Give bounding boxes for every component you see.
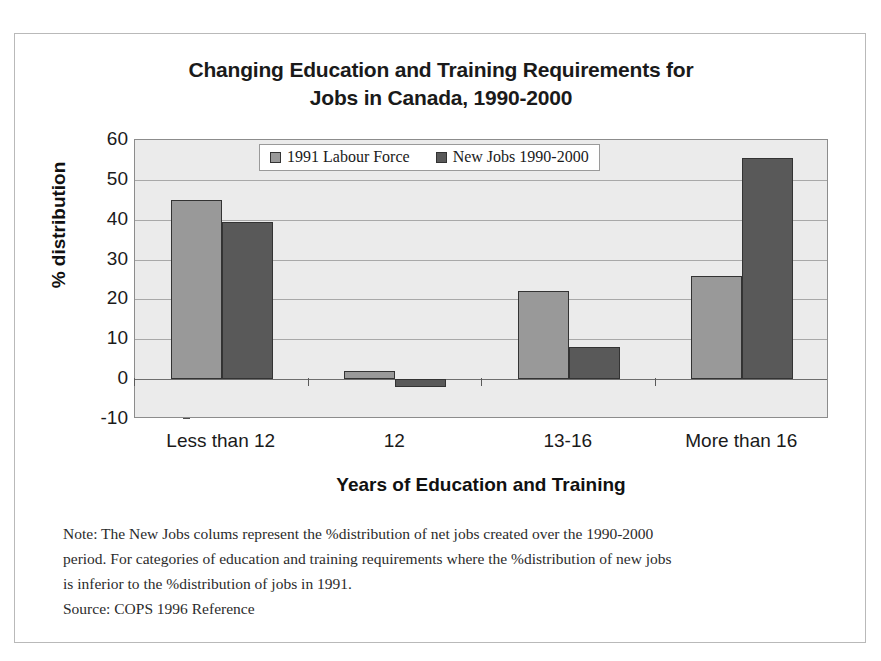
bar-1-1 [395, 379, 446, 387]
gridline [135, 180, 827, 181]
bar-3-1 [742, 158, 793, 379]
legend-entry-1: New Jobs 1990-2000 [436, 148, 589, 166]
legend-label: New Jobs 1990-2000 [453, 148, 589, 166]
legend-swatch-icon [436, 152, 447, 163]
y-tick-label: 50 [107, 168, 128, 190]
footnote-line-1: Note: The New Jobs colums represent the … [63, 521, 823, 546]
y-tick-label: 40 [107, 208, 128, 230]
x-tick-mark [134, 378, 135, 386]
footnote-line-4: Source: COPS 1996 Reference [63, 596, 823, 621]
x-axis-title: Years of Education and Training [134, 474, 828, 496]
gridline [135, 220, 827, 221]
plot-area [134, 139, 828, 418]
x-tick-label: 13-16 [543, 430, 592, 452]
chart-legend: 1991 Labour ForceNew Jobs 1990-2000 [259, 144, 600, 171]
chart-page-frame: Changing Education and Training Requirem… [14, 33, 866, 643]
bar-3-0 [691, 276, 742, 380]
chart-title-line-2: Jobs in Canada, 1990-2000 [15, 84, 867, 112]
y-tick-label: 20 [107, 287, 128, 309]
legend-label: 1991 Labour Force [287, 148, 410, 166]
x-tick-mark [655, 378, 656, 386]
y-tick-label: 30 [107, 248, 128, 270]
x-tick-label: 12 [384, 430, 405, 452]
chart-title-line-1: Changing Education and Training Requirem… [15, 56, 867, 84]
bar-2-1 [569, 347, 620, 379]
legend-entry-0: 1991 Labour Force [270, 148, 410, 166]
bar-2-0 [518, 291, 569, 379]
y-tick-label: -10 [101, 407, 128, 429]
y-tick-label: 0 [117, 367, 128, 389]
y-tick-label: 60 [107, 128, 128, 150]
bar-0-1 [222, 222, 273, 379]
bar-0-0 [171, 200, 222, 379]
y-tick-label: 10 [107, 327, 128, 349]
x-tick-label: More than 16 [685, 430, 797, 452]
footnote-line-3: is inferior to the %distribution of jobs… [63, 571, 823, 596]
y-axis-tick-labels: 6050403020100-10 [70, 139, 128, 418]
x-tick-mark [308, 378, 309, 386]
x-tick-label: Less than 12 [166, 430, 275, 452]
legend-swatch-icon [270, 152, 281, 163]
x-tick-mark [481, 378, 482, 386]
chart-footnote: Note: The New Jobs colums represent the … [63, 521, 823, 621]
y-axis-title: % distribution [48, 125, 70, 325]
footnote-line-2: period. For categories of education and … [63, 546, 823, 571]
chart-title: Changing Education and Training Requirem… [15, 56, 867, 112]
y-tick-mark [183, 418, 190, 419]
bar-1-0 [344, 371, 395, 379]
